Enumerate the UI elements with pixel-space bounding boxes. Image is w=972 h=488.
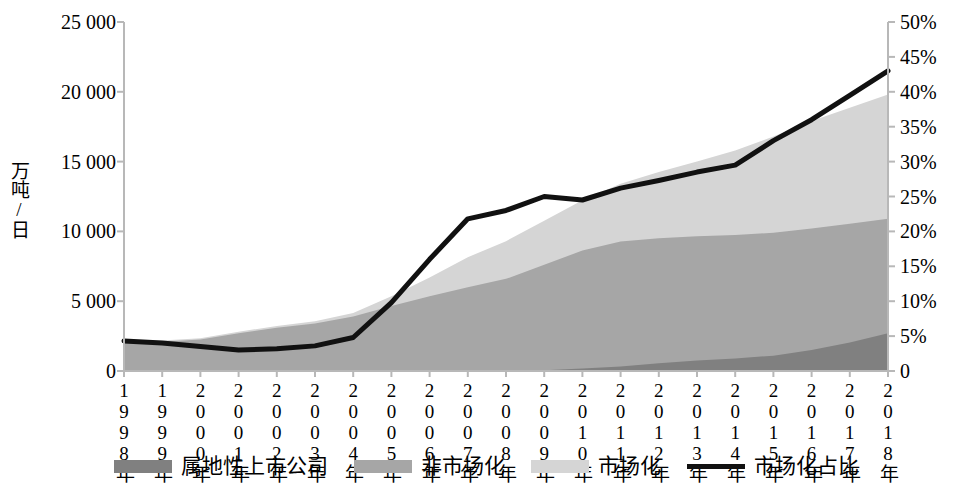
plot-area: 万吨/日 05 00010 00015 00020 00025 000 05%1… [0,0,972,440]
legend-item[interactable]: 市场化占比 [687,456,859,477]
legend-item[interactable]: 市场化 [531,456,661,477]
legend-item-label: 市场化占比 [754,456,859,477]
legend-item-label: 市场化 [598,456,661,477]
legend-item-label: 非市场化 [421,456,505,477]
legend-line-icon [687,464,745,469]
chart-legend: 属地性上市公司非市场化市场化市场化占比 [0,445,972,488]
legend-item[interactable]: 非市场化 [354,456,505,477]
legend-item[interactable]: 属地性上市公司 [114,456,328,477]
legend-swatch-icon [354,460,412,473]
legend-swatch-icon [531,460,589,473]
legend-swatch-icon [114,460,172,473]
legend-item-label: 属地性上市公司 [181,456,328,477]
stacked-area-chart: 万吨/日 05 00010 00015 00020 00025 000 05%1… [0,0,972,488]
x-axis-labels: 1998年1999年2000年2001年2002年2003年2004年2005年… [0,0,972,440]
